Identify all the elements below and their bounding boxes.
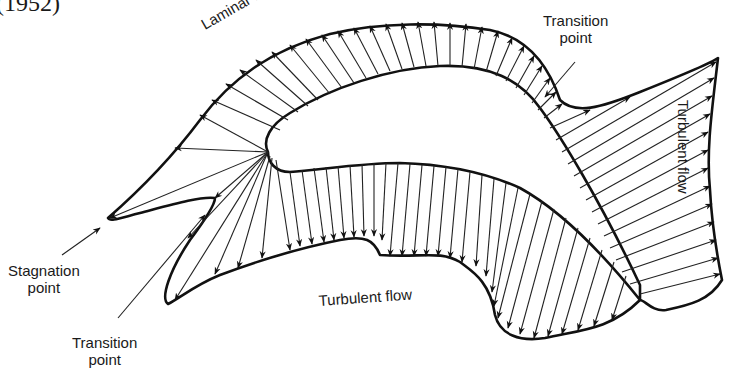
suction-side-turbulent-vectors xyxy=(550,62,720,294)
leading-edge-vectors xyxy=(110,115,290,300)
pressure-side-vectors xyxy=(290,163,626,338)
label-turbulent-flow-right: Turbulent flow xyxy=(675,100,692,194)
leader-stagnation xyxy=(62,228,100,255)
label-transition-point-bottom: Transition point xyxy=(72,334,137,368)
velocity-envelope xyxy=(108,24,722,339)
blade-profile xyxy=(266,66,640,300)
label-stagnation-point: Stagnation point xyxy=(8,262,80,296)
blade-velocity-diagram xyxy=(0,0,740,368)
suction-side-laminar-vectors xyxy=(212,22,562,130)
label-transition-point-top: Transition point xyxy=(543,12,608,46)
leader-transition-bottom xyxy=(118,215,205,318)
